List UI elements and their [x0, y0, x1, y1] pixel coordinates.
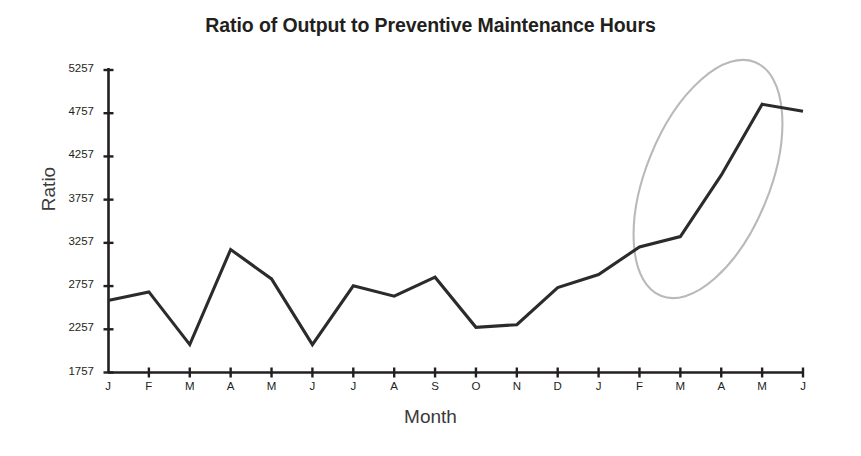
- y-axis-tick-label: 4257: [50, 148, 94, 160]
- y-axis-tick-label: 1757: [50, 365, 94, 377]
- x-axis-tick-label: M: [750, 380, 774, 392]
- x-axis-tick-label: A: [709, 380, 733, 392]
- x-axis-tick-label: A: [382, 380, 406, 392]
- y-axis-tick-label: 3257: [50, 235, 94, 247]
- y-axis-tick-label: 2757: [50, 278, 94, 290]
- y-axis-tick-label: 2257: [50, 321, 94, 333]
- x-axis-tick-label: A: [219, 380, 243, 392]
- x-axis-tick-label: O: [464, 380, 488, 392]
- x-axis-tick-label: J: [791, 380, 815, 392]
- data-series-line: [108, 104, 803, 344]
- x-axis-tick-label: J: [96, 380, 120, 392]
- x-axis-tick-label: F: [627, 380, 651, 392]
- y-axis-tick-label: 5257: [50, 62, 94, 74]
- trend-highlight-ellipse: [603, 39, 812, 319]
- x-axis-tick-label: M: [178, 380, 202, 392]
- x-axis-tick-label: J: [341, 380, 365, 392]
- x-axis-tick-label: S: [423, 380, 447, 392]
- chart-figure: Ratio of Output to Preventive Maintenanc…: [0, 0, 861, 456]
- x-axis-tick-label: M: [668, 380, 692, 392]
- x-axis-tick-label: J: [587, 380, 611, 392]
- x-axis-tick-label: N: [505, 380, 529, 392]
- x-axis-tick-label: D: [546, 380, 570, 392]
- x-axis-tick-label: F: [137, 380, 161, 392]
- y-axis-tick-label: 4757: [50, 105, 94, 117]
- x-axis-tick-label: J: [300, 380, 324, 392]
- y-axis-tick-label: 3757: [50, 192, 94, 204]
- x-axis-tick-label: M: [260, 380, 284, 392]
